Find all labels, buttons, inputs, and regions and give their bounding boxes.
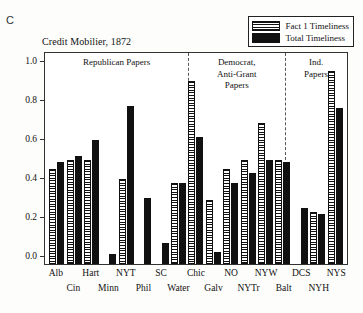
bar-total[interactable]	[162, 243, 169, 264]
bar-group	[241, 53, 256, 264]
bar-total[interactable]	[231, 183, 238, 264]
chart-legend: Fact 1 Timeliness Total Timeliness	[248, 16, 354, 47]
bar-group	[258, 53, 273, 264]
bar-fact1[interactable]	[119, 179, 126, 264]
chart-title: Credit Mobilier, 1872	[42, 36, 131, 47]
y-tick-0.8: 0.8	[25, 94, 44, 106]
x-label-nyw: NYW	[255, 268, 278, 278]
bar-total[interactable]	[144, 198, 151, 264]
y-tick-0.6: 0.6	[25, 133, 44, 145]
bar-group	[328, 53, 343, 264]
legend-item-total: Total Timeliness	[252, 32, 349, 43]
plot-area: Republican Papers Democrat,Anti-GrantPap…	[44, 52, 348, 265]
bar-group	[223, 53, 238, 264]
x-label-nys: NYS	[327, 268, 346, 278]
legend-swatch-hatched	[252, 21, 280, 31]
bar-total[interactable]	[336, 108, 343, 264]
x-label-sc: SC	[155, 268, 167, 278]
bar-group	[310, 53, 325, 264]
bar-total[interactable]	[214, 252, 221, 264]
x-label-phil: Phil	[136, 283, 151, 293]
legend-label-fact1: Fact 1 Timeliness	[285, 21, 349, 31]
panel-label: C	[6, 14, 14, 26]
x-label-dcs: DCS	[292, 268, 310, 278]
bar-fact1[interactable]	[223, 169, 230, 264]
bar-group	[67, 53, 82, 264]
bar-fact1[interactable]	[188, 81, 195, 264]
y-tick-label: 0.2	[25, 212, 37, 222]
bar-fact1[interactable]	[328, 71, 335, 264]
bar-total[interactable]	[92, 140, 99, 264]
bar-groups	[45, 53, 347, 264]
bar-group	[293, 53, 308, 264]
x-label-nyt: NYT	[116, 268, 136, 278]
y-tick-label: 0.8	[25, 95, 37, 105]
x-label-no: NO	[224, 268, 238, 278]
bar-group	[171, 53, 186, 264]
bar-total[interactable]	[109, 254, 116, 264]
y-axis: 0.00.20.40.60.81.0	[0, 52, 44, 266]
bar-total[interactable]	[57, 162, 64, 264]
bar-fact1[interactable]	[67, 160, 74, 264]
x-label-chic: Chic	[187, 268, 205, 278]
y-tick-1.0: 1.0	[25, 55, 44, 67]
y-tick-label: 1.0	[25, 56, 37, 66]
y-tick-0.4: 0.4	[25, 172, 44, 184]
bar-total[interactable]	[283, 162, 290, 264]
bar-total[interactable]	[301, 208, 308, 264]
bar-fact1[interactable]	[241, 160, 248, 264]
x-label-nyh: NYH	[308, 283, 329, 293]
bar-fact1[interactable]	[275, 160, 282, 264]
bar-group	[119, 53, 134, 264]
bar-group	[49, 53, 64, 264]
y-tick-0.0: 0.0	[25, 250, 44, 262]
x-label-nytr: NYTr	[237, 283, 259, 293]
bar-group	[206, 53, 221, 264]
x-label-hart: Hart	[82, 268, 99, 278]
bar-fact1[interactable]	[258, 123, 265, 264]
bar-total[interactable]	[196, 137, 203, 264]
bar-group	[84, 53, 99, 264]
x-label-cin: Cin	[66, 283, 80, 293]
legend-swatch-solid	[252, 33, 280, 43]
bar-group	[188, 53, 203, 264]
x-label-water: Water	[167, 283, 189, 293]
x-axis-labels: AlbCinHartMinnNYTPhilSCWaterChicGalvNONY…	[44, 266, 348, 310]
legend-item-fact1: Fact 1 Timeliness	[252, 20, 349, 31]
bar-fact1[interactable]	[84, 160, 91, 264]
bar-fact1[interactable]	[171, 183, 178, 264]
x-label-galv: Galv	[204, 283, 222, 293]
bar-group	[154, 53, 169, 264]
bar-fact1[interactable]	[206, 200, 213, 264]
bar-fact1[interactable]	[49, 169, 56, 264]
bar-group	[136, 53, 151, 264]
bar-total[interactable]	[179, 183, 186, 264]
x-label-balt: Balt	[276, 283, 292, 293]
y-tick-label: 0.4	[25, 173, 37, 183]
bar-total[interactable]	[266, 160, 273, 264]
bar-fact1[interactable]	[310, 212, 317, 264]
y-tick-label: 0.6	[25, 134, 37, 144]
x-label-minn: Minn	[98, 283, 119, 293]
y-tick-label: 0.0	[25, 251, 37, 261]
bar-group	[101, 53, 116, 264]
bar-group	[275, 53, 290, 264]
y-tick-0.2: 0.2	[25, 211, 44, 223]
legend-label-total: Total Timeliness	[285, 33, 345, 43]
bar-total[interactable]	[127, 106, 134, 264]
bar-total[interactable]	[249, 173, 256, 264]
x-label-alb: Alb	[49, 268, 63, 278]
bar-total[interactable]	[75, 156, 82, 264]
bar-total[interactable]	[318, 214, 325, 264]
